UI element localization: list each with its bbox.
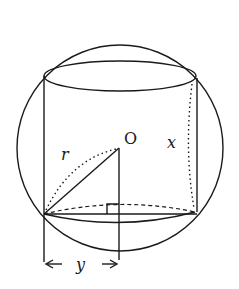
sphere-outline	[17, 45, 223, 251]
height-dotted-arc	[188, 84, 194, 208]
half-base-label: y	[75, 255, 86, 274]
center-label: O	[124, 129, 137, 148]
radius-label: r	[61, 145, 70, 164]
sphere-cylinder-diagram: O r x y	[0, 0, 239, 289]
radius-dotted-arc	[46, 149, 116, 210]
cylinder-top-ellipse	[44, 61, 196, 91]
height-label: x	[167, 133, 176, 152]
right-angle-marker	[107, 204, 119, 214]
